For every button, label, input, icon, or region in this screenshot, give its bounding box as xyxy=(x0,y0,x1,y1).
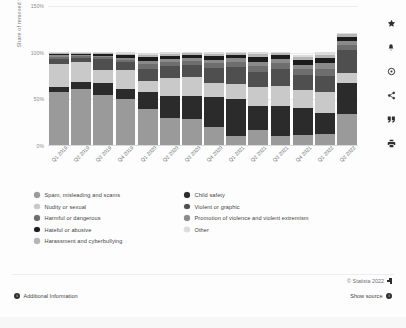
bar-column[interactable] xyxy=(93,6,113,145)
legend-item[interactable]: Spam, misleading and scams xyxy=(34,192,184,198)
bar-segment[interactable] xyxy=(204,127,224,145)
stacked-bar[interactable] xyxy=(160,52,180,145)
bar-column[interactable] xyxy=(271,6,291,145)
bar-segment[interactable] xyxy=(315,76,335,91)
stacked-bar[interactable] xyxy=(315,52,335,145)
bar-segment[interactable] xyxy=(49,92,69,145)
bar-segment[interactable] xyxy=(248,87,268,106)
legend-item[interactable]: Hateful or abusive xyxy=(34,227,184,233)
bar-segment[interactable] xyxy=(71,82,91,89)
bar-segment[interactable] xyxy=(226,136,246,145)
bar-column[interactable] xyxy=(138,6,158,145)
alert-icon[interactable] xyxy=(382,38,400,56)
bar-segment[interactable] xyxy=(71,89,91,145)
bar-column[interactable] xyxy=(160,6,180,145)
bar-segment[interactable] xyxy=(116,62,136,69)
bar-segment[interactable] xyxy=(315,113,335,134)
bar-column[interactable] xyxy=(204,6,224,145)
bar-segment[interactable] xyxy=(315,134,335,145)
share-icon[interactable] xyxy=(382,86,400,104)
stacked-bar[interactable] xyxy=(271,52,291,145)
legend-item[interactable]: Harassment and cyberbullying xyxy=(34,238,184,244)
bar-segment[interactable] xyxy=(182,65,202,77)
bar-segment[interactable] xyxy=(271,136,291,145)
bar-column[interactable] xyxy=(337,6,357,145)
bar-segment[interactable] xyxy=(160,96,180,119)
bar-segment[interactable] xyxy=(248,106,268,129)
bar-segment[interactable] xyxy=(138,109,158,145)
citation-icon[interactable] xyxy=(382,110,400,128)
legend-item[interactable]: Promotion of violence and violent extrem… xyxy=(184,215,354,221)
legend-item[interactable]: Other xyxy=(184,227,354,233)
bar-segment[interactable] xyxy=(182,119,202,145)
bar-segment[interactable] xyxy=(271,106,291,136)
bar-column[interactable] xyxy=(248,6,268,145)
bar-segment[interactable] xyxy=(226,99,246,136)
bar-segment[interactable] xyxy=(226,84,246,98)
bar-segment[interactable] xyxy=(93,83,113,95)
bar-segment[interactable] xyxy=(160,118,180,145)
bar-segment[interactable] xyxy=(226,67,246,85)
additional-information-button[interactable]: i Additional Information xyxy=(14,293,78,299)
bar-segment[interactable] xyxy=(337,73,357,83)
bar-segment[interactable] xyxy=(160,66,180,78)
favorite-icon[interactable] xyxy=(382,14,400,32)
bar-segment[interactable] xyxy=(71,62,91,83)
bar-segment[interactable] xyxy=(138,92,158,109)
bar-segment[interactable] xyxy=(248,72,268,87)
bar-segment[interactable] xyxy=(49,64,69,86)
bar-segment[interactable] xyxy=(271,86,291,106)
stacked-bar[interactable] xyxy=(116,52,136,145)
bar-segment[interactable] xyxy=(93,70,113,84)
bar-column[interactable] xyxy=(49,6,69,145)
bar-segment[interactable] xyxy=(337,114,357,145)
stacked-bar[interactable] xyxy=(337,33,357,145)
show-source-button[interactable]: Show source i xyxy=(350,293,392,299)
bar-segment[interactable] xyxy=(315,92,335,113)
stacked-bar[interactable] xyxy=(248,52,268,145)
bar-segment[interactable] xyxy=(116,70,136,89)
bar-column[interactable] xyxy=(116,6,136,145)
bar-segment[interactable] xyxy=(271,69,291,85)
bar-segment[interactable] xyxy=(204,83,224,98)
bar-segment[interactable] xyxy=(116,89,136,99)
stacked-bar[interactable] xyxy=(204,52,224,145)
print-icon[interactable] xyxy=(382,134,400,152)
legend-item[interactable]: Child safety xyxy=(184,192,354,198)
bar-segment[interactable] xyxy=(315,69,335,77)
stacked-bar[interactable] xyxy=(293,55,313,145)
bar-column[interactable] xyxy=(315,6,335,145)
stacked-bar[interactable] xyxy=(138,53,158,145)
legend-item[interactable]: Violent or graphic xyxy=(184,204,354,210)
bar-segment[interactable] xyxy=(293,135,313,145)
legend-item[interactable]: Harmful or dangerous xyxy=(34,215,184,221)
settings-icon[interactable] xyxy=(382,62,400,80)
stacked-bar[interactable] xyxy=(93,52,113,145)
stacked-bar[interactable] xyxy=(226,52,246,145)
bar-column[interactable] xyxy=(293,6,313,145)
stacked-bar[interactable] xyxy=(182,52,202,145)
bar-segment[interactable] xyxy=(93,95,113,145)
bar-segment[interactable] xyxy=(204,97,224,127)
bar-segment[interactable] xyxy=(293,75,313,90)
bar-segment[interactable] xyxy=(293,108,313,135)
bar-segment[interactable] xyxy=(293,90,313,107)
stacked-bar[interactable] xyxy=(49,52,69,145)
stacked-bar[interactable] xyxy=(71,52,91,145)
bar-segment[interactable] xyxy=(116,99,136,145)
bar-segment[interactable] xyxy=(138,69,158,81)
bar-column[interactable] xyxy=(226,6,246,145)
bar-column[interactable] xyxy=(182,6,202,145)
bar-segment[interactable] xyxy=(182,96,202,120)
bar-segment[interactable] xyxy=(248,130,268,145)
bar-segment[interactable] xyxy=(337,83,357,114)
bar-segment[interactable] xyxy=(182,77,202,95)
bar-segment[interactable] xyxy=(93,59,113,70)
bar-column[interactable] xyxy=(71,6,91,145)
x-axis-label: Q3 2019 xyxy=(93,148,113,188)
bar-segment[interactable] xyxy=(337,50,357,72)
bar-segment[interactable] xyxy=(160,78,180,95)
legend-item[interactable]: Nudity or sexual xyxy=(34,204,184,210)
bar-segment[interactable] xyxy=(138,81,158,93)
bar-segment[interactable] xyxy=(204,68,224,83)
